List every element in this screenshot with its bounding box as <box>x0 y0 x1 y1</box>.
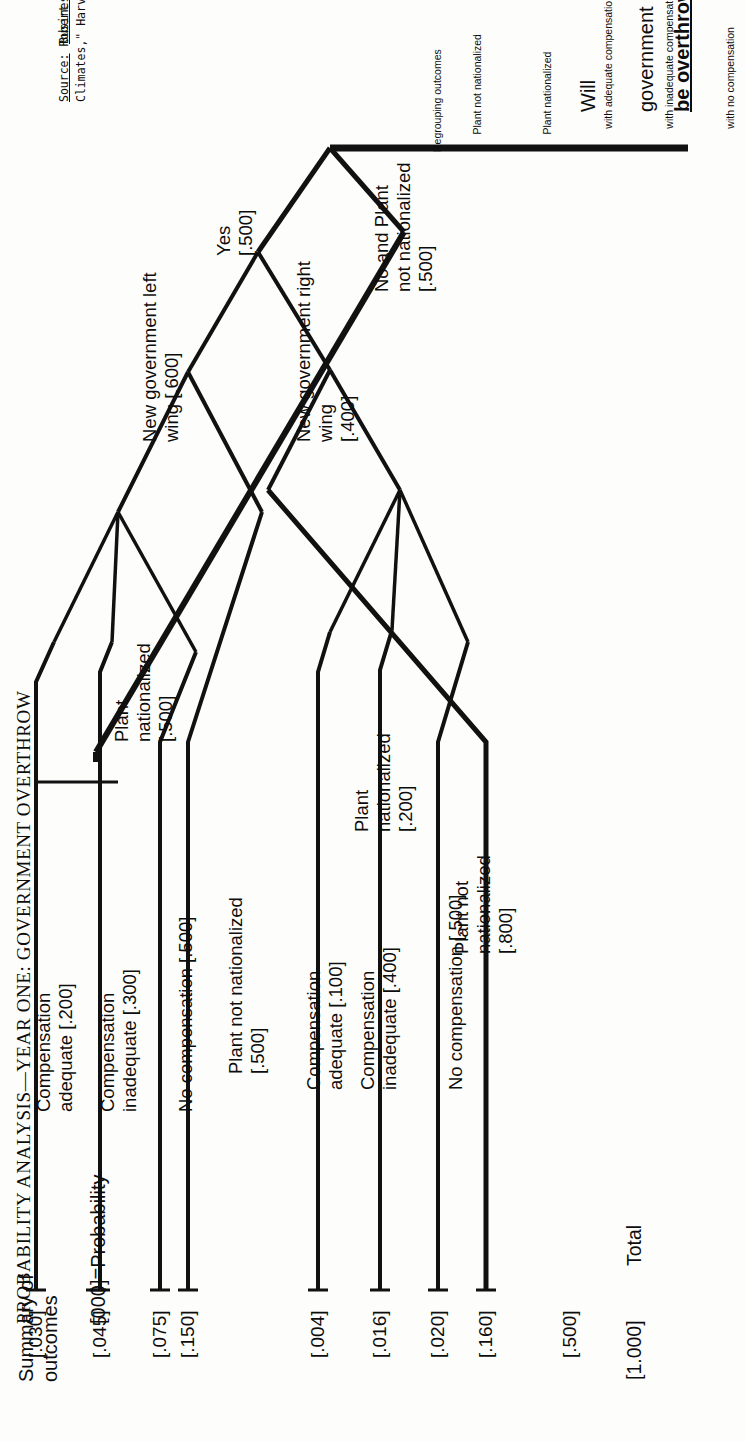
label-compensation-inadequate-right-l1: Compensation <box>358 971 378 1090</box>
outcome-value-7: [.020] <box>428 1310 449 1358</box>
outcome-value-5: [.004] <box>308 1310 329 1358</box>
label-plant-nationalized-left-l1: Plant <box>112 700 132 742</box>
label-compensation-adequate-right-l2: adequate [.100] <box>326 961 346 1090</box>
label-plant-not-nationalized-left-l2: [.500] <box>248 1028 268 1074</box>
regrouping-header: Regrouping outcomes <box>430 0 445 152</box>
outcome-value-2: [.045] <box>90 1310 111 1358</box>
regrouping-outcomes-table: Regrouping outcomes Plant not nationaliz… <box>430 0 746 152</box>
label-plant-nationalized-right-l2: nationalized <box>374 733 394 832</box>
regrouping-row-3: with inadequate compensation [.061] <box>647 0 708 152</box>
label-plant-nationalized-left-l2: nationalized <box>134 643 154 742</box>
label-compensation-adequate-right-l1: Compensation <box>304 971 324 1090</box>
label-new-government-left-wing-l1: New government left <box>140 272 160 442</box>
label-no-plant-not-nationalized-l2: not nationalized <box>394 162 414 292</box>
label-new-government-right-wing-l1: New government right <box>294 261 314 442</box>
label-plant-not-nationalized-left-l1: Plant not nationalized <box>226 897 246 1074</box>
outcome-value-3: [.075] <box>150 1310 171 1358</box>
regrouping-row-4: with no compensation [.095] <box>708 0 746 152</box>
label-compensation-inadequate-left-l2: inadequate [.300] <box>120 969 140 1112</box>
label-plant-not-nationalized-right-l3: [.800] <box>496 908 516 954</box>
source-journal: Business Review, <box>57 0 71 44</box>
total-value: [1.000] <box>624 1320 645 1380</box>
regrouping-row-2-label: with adequate compensation <box>602 0 614 134</box>
label-no-compensation-left: No compensation [.500] <box>176 917 196 1112</box>
label-new-government-left-wing-l2: wing [.600] <box>162 353 182 442</box>
figure-title: PROBABILITY ANALYSIS—YEAR ONE: GOVERNMEN… <box>14 691 35 1324</box>
label-new-government-right-wing-l3: [.400] <box>338 396 358 442</box>
regrouping-row-1: Plant nationalized <box>525 0 586 152</box>
regrouping-row-0: Plant not nationalized [.810] <box>455 0 516 152</box>
figure-canvas: PROBABILITY ANALYSIS—YEAR ONE: GOVERNMEN… <box>0 0 746 1442</box>
regrouping-row-2: with adequate compensation [.034] <box>586 0 647 152</box>
regrouping-row-1-label: Plant nationalized <box>541 52 553 135</box>
total-label: Total <box>624 1225 645 1266</box>
regrouping-row-0-label: Plant not nationalized <box>471 34 483 134</box>
label-compensation-adequate-left-l2: adequate [.200] <box>56 983 76 1112</box>
rotated-figure-canvas: PROBABILITY ANALYSIS—YEAR ONE: GOVERNMEN… <box>0 0 746 1442</box>
outcome-value-4: [.150] <box>178 1310 199 1358</box>
regrouping-row-3-label: with inadequate compensation <box>663 0 675 134</box>
source-label: Source: <box>57 54 71 102</box>
outcome-value-1: [.030] <box>26 1310 47 1358</box>
label-yes-l2: [.500] <box>236 210 256 256</box>
label-yes-l1: Yes <box>214 226 234 256</box>
label-plant-not-nationalized-right-l1: Plant not <box>452 881 472 954</box>
label-plant-not-nationalized-right-l2: nationalized <box>474 855 494 954</box>
source-note-line2: Business Review, September–October 1969,… <box>56 0 73 44</box>
label-new-government-right-wing-l2: wing <box>316 404 336 442</box>
regrouping-row-4-label: with no compensation <box>724 27 736 134</box>
outcome-value-9: [.500] <box>560 1310 581 1358</box>
legend-probability-key: [000]=Probability <box>88 1174 110 1324</box>
label-no-plant-not-nationalized-l1: No and Plant <box>372 185 392 292</box>
outcome-value-8: [.160] <box>476 1310 497 1358</box>
label-compensation-adequate-left-l1: Compensation <box>34 993 54 1112</box>
label-plant-nationalized-left-l3: [.500] <box>156 696 176 742</box>
label-plant-nationalized-right-l3: [.200] <box>396 786 416 832</box>
label-compensation-inadequate-right-l2: inadequate [.400] <box>380 947 400 1090</box>
label-no-plant-not-nationalized-l3: [.500] <box>416 246 436 292</box>
label-plant-nationalized-right-l1: Plant <box>352 790 372 832</box>
label-compensation-inadequate-left-l1: Compensation <box>98 993 118 1112</box>
outcome-value-6: [.016] <box>370 1310 391 1358</box>
